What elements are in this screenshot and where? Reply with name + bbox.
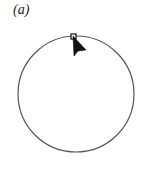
arrow-cursor-icon bbox=[73, 36, 86, 56]
circle-diagram bbox=[0, 0, 158, 170]
figure-canvas: (a) bbox=[0, 0, 158, 170]
